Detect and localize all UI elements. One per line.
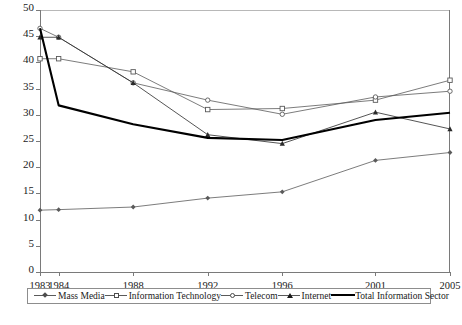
- open-square-icon-glyph: [114, 293, 119, 298]
- data-point-marker: [131, 70, 135, 74]
- data-point-marker: [373, 95, 377, 99]
- legend-item-label: Total Information Sector: [355, 291, 449, 301]
- data-point-marker: [206, 98, 210, 102]
- data-point-marker: [205, 196, 210, 201]
- legend-item-label: Information Technology: [129, 291, 221, 301]
- data-point-marker: [280, 112, 284, 116]
- series-lines: [40, 10, 450, 272]
- plot-area: 05101520253035404550 1983198419881992199…: [40, 10, 450, 272]
- y-tick: 35: [6, 89, 40, 90]
- y-tick: 20: [6, 167, 40, 168]
- data-point-marker: [280, 106, 284, 110]
- legend-item-information-technology[interactable]: Information Technology: [105, 291, 221, 301]
- series-line: [40, 28, 450, 114]
- open-circle-icon: [221, 291, 243, 301]
- x-tick-mark: [133, 272, 134, 276]
- y-tick: 5: [6, 246, 40, 247]
- data-point-marker: [373, 158, 378, 163]
- legend-item-label: Telecom: [245, 291, 278, 301]
- y-tick: 40: [6, 62, 40, 63]
- x-tick-mark: [282, 272, 283, 276]
- series-internet: [37, 34, 452, 145]
- y-tick-label: 45: [23, 28, 34, 39]
- y-tick: 50: [6, 10, 40, 11]
- y-tick: 10: [6, 220, 40, 221]
- y-tick: 45: [6, 36, 40, 37]
- legend-item-mass-media[interactable]: Mass Media: [34, 291, 105, 301]
- x-axis: [40, 272, 450, 273]
- x-tick-mark: [450, 272, 451, 276]
- open-square-icon: [105, 291, 127, 301]
- series-line: [40, 28, 450, 140]
- y-tick: 15: [6, 193, 40, 194]
- data-point-marker: [280, 189, 285, 194]
- open-circle-icon-glyph: [230, 293, 235, 298]
- data-point-marker: [131, 205, 136, 210]
- x-tick-mark: [59, 272, 60, 276]
- legend-item-total-information-sector[interactable]: Total Information Sector: [331, 291, 449, 301]
- thick-line-icon: [331, 291, 353, 301]
- data-point-marker: [205, 132, 210, 137]
- series-total-information-sector: [40, 28, 450, 140]
- filled-triangle-icon: [278, 291, 300, 301]
- x-tick-mark: [40, 272, 41, 276]
- chart-legend: Mass MediaInformation TechnologyTelecomI…: [27, 288, 431, 304]
- data-point-marker: [448, 89, 452, 93]
- x-tick-mark: [208, 272, 209, 276]
- legend-item-label: Internet: [302, 291, 332, 301]
- legend-item-telecom[interactable]: Telecom: [221, 291, 278, 301]
- legend-item-internet[interactable]: Internet: [278, 291, 332, 301]
- y-tick-label: 20: [23, 159, 34, 170]
- series-line: [40, 59, 450, 110]
- data-point-marker: [448, 150, 453, 155]
- diamond-icon-glyph: [42, 292, 48, 298]
- y-tick-label: 30: [23, 107, 34, 118]
- data-point-marker: [373, 109, 378, 114]
- data-point-marker: [38, 57, 42, 61]
- y-tick-label: 35: [23, 81, 34, 92]
- x-tick-label: 2005: [440, 280, 461, 291]
- y-tick-label: 15: [23, 185, 34, 196]
- y-tick-label: 5: [29, 238, 35, 249]
- series-mass-media: [38, 150, 453, 212]
- data-point-marker: [38, 208, 43, 213]
- y-tick: 25: [6, 141, 40, 142]
- legend-item-label: Mass Media: [58, 291, 105, 301]
- y-tick-label: 25: [23, 133, 34, 144]
- y-tick-label: 50: [23, 2, 34, 13]
- y-tick: 30: [6, 115, 40, 116]
- chart-figure: 05101520253035404550 1983198419881992199…: [0, 0, 462, 325]
- data-point-marker: [206, 107, 210, 111]
- y-tick: 0: [6, 272, 40, 273]
- y-tick-label: 0: [29, 264, 35, 275]
- y-tick-label: 10: [23, 212, 34, 223]
- diamond-icon: [34, 291, 56, 301]
- series-telecom: [38, 26, 452, 116]
- x-tick-mark: [375, 272, 376, 276]
- filled-triangle-icon-glyph: [287, 293, 293, 298]
- data-point-marker: [56, 207, 61, 212]
- data-point-marker: [56, 57, 60, 61]
- series-information-technology: [38, 57, 452, 112]
- series-line: [40, 153, 450, 211]
- y-tick-label: 40: [23, 54, 34, 65]
- series-line: [40, 37, 450, 143]
- data-point-marker: [448, 78, 452, 82]
